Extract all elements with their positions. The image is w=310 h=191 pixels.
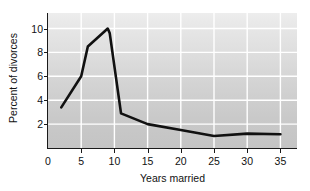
y-tick-mark xyxy=(44,52,48,53)
x-tick-label: 5 xyxy=(66,155,96,167)
x-tick-mark xyxy=(114,149,115,153)
y-tick-label: 2 xyxy=(23,118,43,130)
x-tick-label: 35 xyxy=(265,155,295,167)
y-tick-mark xyxy=(44,29,48,30)
y-tick-mark xyxy=(44,100,48,101)
y-tick-label: 4 xyxy=(23,94,43,106)
x-tick-mark xyxy=(81,149,82,153)
plot-svg xyxy=(48,13,297,148)
x-axis-title: Years married xyxy=(48,172,297,184)
y-tick-label: 6 xyxy=(23,70,43,82)
x-tick-label: 20 xyxy=(166,155,196,167)
plot-area xyxy=(48,13,297,148)
x-tick-mark xyxy=(247,149,248,153)
x-tick-mark xyxy=(214,149,215,153)
y-tick-mark xyxy=(44,76,48,77)
y-tick-mark xyxy=(44,124,48,125)
x-tick-mark xyxy=(181,149,182,153)
y-axis-title: Percent of divorces xyxy=(4,4,22,152)
y-tick-label: 10 xyxy=(23,23,43,35)
x-tick-label: 15 xyxy=(133,155,163,167)
y-tick-label: 8 xyxy=(23,46,43,58)
x-tick-label: 30 xyxy=(232,155,262,167)
x-axis-line xyxy=(47,148,297,149)
x-tick-label: 25 xyxy=(199,155,229,167)
horizontal-gridlines xyxy=(48,29,297,125)
vertical-gridlines xyxy=(81,13,280,148)
x-tick-label: 10 xyxy=(99,155,129,167)
x-tick-mark xyxy=(148,149,149,153)
x-tick-mark xyxy=(280,149,281,153)
x-tick-label: 0 xyxy=(33,155,63,167)
divorce-rate-line-chart: Percent of divorces 246810 0510152025303… xyxy=(0,0,310,191)
